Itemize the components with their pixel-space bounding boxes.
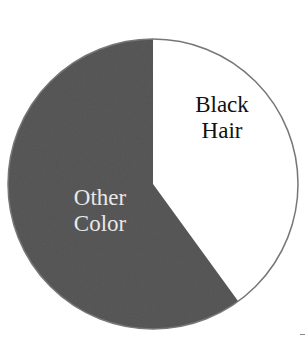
label-line: Color (50, 211, 150, 237)
corner-mark (300, 334, 305, 335)
label-line: Hair (172, 118, 272, 144)
pie-chart (0, 0, 307, 338)
slice-label-other-color: Other Color (50, 185, 150, 237)
label-line: Black (172, 92, 272, 118)
slice-label-black-hair: Black Hair (172, 92, 272, 144)
label-line: Other (50, 185, 150, 211)
